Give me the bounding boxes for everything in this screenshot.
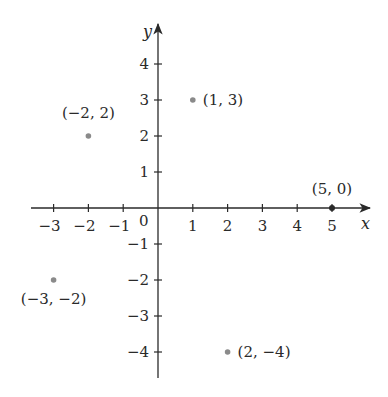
- point-label: (−3, −2): [21, 290, 86, 308]
- data-point: [190, 97, 196, 103]
- y-tick-label: 3: [139, 91, 149, 109]
- y-tick-label: −1: [127, 235, 149, 253]
- point-label: (5, 0): [312, 180, 352, 198]
- point-label: (1, 3): [203, 91, 243, 109]
- x-tick-label: 2: [223, 217, 233, 235]
- y-tick-label: 4: [139, 55, 149, 73]
- y-tick-label: −4: [127, 343, 149, 361]
- x-tick-label: 3: [258, 217, 268, 235]
- x-tick-label: −3: [39, 217, 61, 235]
- coordinate-plane: x y 0 −3−2−112345 4321−1−2−3−4 (−2, 2)(1…: [0, 0, 388, 397]
- x-tick-label: 4: [292, 217, 302, 235]
- x-tick-label: −1: [108, 217, 130, 235]
- y-tick-label: −2: [127, 271, 149, 289]
- x-tick-label: −2: [73, 217, 95, 235]
- y-tick-label: −3: [127, 307, 149, 325]
- x-axis-label: x: [361, 214, 370, 233]
- x-tick-label: 5: [327, 217, 337, 235]
- origin-label: 0: [139, 212, 149, 230]
- y-tick-label: 1: [139, 163, 149, 181]
- y-tick-label: 2: [139, 127, 149, 145]
- x-tick-label: 1: [188, 217, 198, 235]
- data-point: [51, 277, 57, 283]
- data-point: [86, 133, 92, 139]
- data-points: (−2, 2)(1, 3)(5, 0)(−3, −2)(2, −4): [21, 91, 352, 361]
- y-axis-label: y: [142, 22, 153, 41]
- data-point: [329, 205, 335, 211]
- data-point: [225, 349, 231, 355]
- point-label: (2, −4): [238, 343, 291, 361]
- point-label: (−2, 2): [62, 104, 115, 122]
